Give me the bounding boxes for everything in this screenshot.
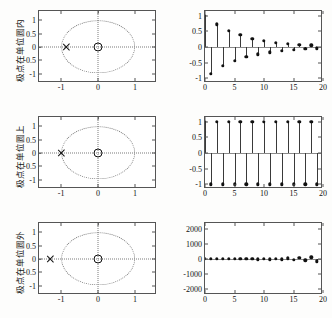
- pole-marker: [57, 149, 66, 158]
- y-tick-label: -0.5: [189, 58, 202, 67]
- y-tick-mark: [39, 33, 42, 34]
- y-tick-mark: [318, 31, 321, 32]
- x-tick-mark: [98, 11, 99, 14]
- y-tick-mark: [318, 137, 321, 138]
- y-tick-label: 0: [198, 149, 202, 158]
- x-tick-mark: [323, 78, 324, 81]
- stem-line: [235, 153, 236, 184]
- pole-zero-plot-area: [39, 223, 155, 293]
- y-tick-mark: [318, 121, 321, 122]
- y-tick-mark: [39, 272, 42, 273]
- y-tick-mark: [39, 153, 42, 154]
- pole-zero-plot-area: [39, 117, 155, 187]
- x-tick-mark: [323, 11, 324, 14]
- stem-marker: [233, 59, 236, 62]
- x-tick-mark: [205, 117, 206, 120]
- stem-marker: [239, 120, 242, 123]
- x-tick-mark: [264, 290, 265, 293]
- impulse-response-plot-area: [205, 223, 321, 293]
- x-tick-label: 5: [233, 295, 237, 304]
- stem-marker: [268, 51, 271, 54]
- stem-marker: [280, 183, 283, 186]
- y-tick-mark: [152, 47, 155, 48]
- stem-marker: [292, 48, 295, 51]
- x-tick-label: 0: [203, 189, 207, 198]
- y-tick-mark: [39, 20, 42, 21]
- y-tick-label: -1000: [183, 270, 202, 279]
- y-tick-label: -1: [29, 69, 36, 78]
- stem-marker: [262, 39, 265, 42]
- stem-line: [246, 153, 247, 184]
- x-tick-label: 1: [133, 83, 137, 92]
- y-tick-mark: [152, 259, 155, 260]
- y-tick-label: -0.5: [23, 162, 36, 171]
- x-tick-mark: [98, 290, 99, 293]
- x-tick-label: 15: [290, 83, 298, 92]
- pole-zero-axes: -1-0.500.51-101: [38, 10, 156, 82]
- stem-marker: [268, 183, 271, 186]
- stem-marker: [304, 183, 307, 186]
- stem-marker: [268, 258, 271, 261]
- stem-marker: [274, 41, 277, 44]
- y-tick-label: -0.5: [189, 164, 202, 173]
- y-tick-label: 0.5: [192, 133, 202, 142]
- x-tick-mark: [205, 223, 206, 226]
- x-tick-mark: [264, 184, 265, 187]
- y-tick-mark: [318, 62, 321, 63]
- zero-marker: [94, 149, 103, 158]
- x-tick-label: 5: [233, 189, 237, 198]
- y-tick-label: 0.5: [26, 29, 36, 38]
- impulse-response-panel-inside: -1-0.500.5105101520: [166, 0, 332, 106]
- y-tick-label: 0.5: [26, 241, 36, 250]
- y-tick-mark: [318, 168, 321, 169]
- stem-marker: [286, 42, 289, 45]
- y-tick-mark: [318, 229, 321, 230]
- y-tick-mark: [39, 60, 42, 61]
- y-tick-label: 0.5: [192, 27, 202, 36]
- y-tick-label: 0: [198, 43, 202, 52]
- y-tick-mark: [39, 285, 42, 286]
- y-tick-mark: [318, 15, 321, 16]
- stem-marker: [250, 257, 253, 260]
- x-tick-label: 0: [203, 295, 207, 304]
- stem-marker: [239, 33, 242, 36]
- y-tick-mark: [39, 232, 42, 233]
- x-tick-mark: [134, 223, 135, 226]
- x-tick-mark: [293, 223, 294, 226]
- x-tick-label: -1: [58, 83, 65, 92]
- y-tick-mark: [152, 60, 155, 61]
- zero-marker: [94, 43, 103, 52]
- x-tick-mark: [134, 78, 135, 81]
- y-tick-mark: [205, 229, 208, 230]
- y-tick-label: 1: [32, 228, 36, 237]
- y-tick-mark: [318, 78, 321, 79]
- x-tick-mark: [205, 184, 206, 187]
- x-tick-mark: [234, 11, 235, 14]
- stem-line: [252, 122, 253, 153]
- x-tick-label: 0: [96, 83, 100, 92]
- stem-marker: [215, 257, 218, 260]
- y-tick-mark: [152, 285, 155, 286]
- stem-line: [294, 153, 295, 184]
- y-tick-mark: [205, 153, 208, 154]
- x-tick-mark: [61, 11, 62, 14]
- y-tick-mark: [318, 274, 321, 275]
- x-tick-mark: [234, 290, 235, 293]
- stem-marker: [250, 37, 253, 40]
- stem-line: [240, 122, 241, 153]
- stem-line: [282, 153, 283, 184]
- x-tick-mark: [61, 117, 62, 120]
- stem-line: [258, 153, 259, 184]
- stem-line: [240, 35, 241, 47]
- y-tick-label: 2000: [186, 225, 202, 234]
- y-tick-label: 1: [32, 122, 36, 131]
- stem-marker: [245, 183, 248, 186]
- x-tick-label: 5: [233, 83, 237, 92]
- x-tick-mark: [98, 223, 99, 226]
- y-tick-label: 0.5: [26, 135, 36, 144]
- stem-marker: [280, 49, 283, 52]
- x-tick-mark: [205, 11, 206, 14]
- y-tick-mark: [205, 244, 208, 245]
- y-tick-mark: [205, 137, 208, 138]
- figure-row-outside: -1-0.500.51-101极点在单位圆外-2000-100001000200…: [0, 212, 332, 318]
